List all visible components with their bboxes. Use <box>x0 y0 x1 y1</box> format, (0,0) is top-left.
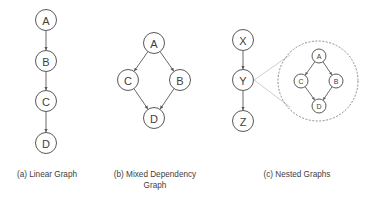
node-label: D <box>42 138 50 150</box>
caption-nested-graphs: (c) Nested Graphs <box>264 170 331 179</box>
node-d: D <box>312 99 326 113</box>
edge-a-to-b <box>160 52 174 71</box>
node-label: A <box>42 15 50 27</box>
node-b: B <box>36 51 57 72</box>
edge-b-to-d <box>160 89 174 109</box>
edge-a-to-b <box>323 62 332 75</box>
caption-mixed-dependency-line2: Graph <box>144 181 167 190</box>
node-label: D <box>316 103 321 110</box>
node-c: C <box>36 91 57 112</box>
node-b: B <box>329 74 343 88</box>
node-label: A <box>150 38 158 50</box>
node-z: Z <box>233 111 254 132</box>
edges <box>134 52 174 109</box>
node-label: X <box>239 35 247 47</box>
edge-c-to-d <box>305 87 315 100</box>
node-d: D <box>36 133 57 154</box>
diagram-canvas: ABCD (a) Linear Graph ACBD (b) Mixed Dep… <box>0 0 374 198</box>
node-label: Z <box>240 116 247 128</box>
panel-linear-graph: ABCD (a) Linear Graph <box>17 10 78 180</box>
node-a: A <box>144 33 165 54</box>
nested-edges <box>305 62 332 100</box>
caption-mixed-dependency-line1: (b) Mixed Dependency <box>114 170 197 179</box>
node-label: C <box>298 78 303 85</box>
panel-nested-graphs: XYZ ACBD (c) Nested Graphs <box>233 30 359 180</box>
node-y: Y <box>233 70 254 91</box>
panel-mixed-dependency-graph: ACBD (b) Mixed Dependency Graph <box>114 33 197 191</box>
nodes: XYZ <box>233 30 254 132</box>
nested-nodes: ACBD <box>294 49 343 113</box>
node-label: B <box>334 78 339 85</box>
edge-b-to-d <box>323 87 332 100</box>
node-label: B <box>176 75 183 87</box>
node-b: B <box>170 70 191 91</box>
node-label: D <box>150 113 158 125</box>
node-c: C <box>118 70 139 91</box>
edge-a-to-c <box>305 62 315 75</box>
node-label: C <box>124 75 132 87</box>
caption-linear-graph: (a) Linear Graph <box>17 170 78 179</box>
edge-c-to-d <box>134 89 148 109</box>
node-x: X <box>233 30 254 51</box>
node-label: B <box>42 56 49 68</box>
nodes: ACBD <box>118 33 191 129</box>
edge-a-to-c <box>134 52 148 71</box>
node-a: A <box>36 10 57 31</box>
node-label: A <box>317 53 322 60</box>
node-c: C <box>294 74 308 88</box>
node-d: D <box>144 108 165 129</box>
node-label: C <box>42 96 50 108</box>
node-label: Y <box>239 75 247 87</box>
node-a: A <box>312 49 326 63</box>
